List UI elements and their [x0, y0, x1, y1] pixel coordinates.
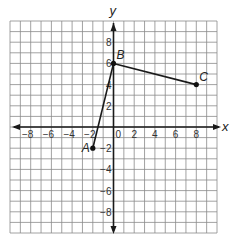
y-tick-label: −4	[100, 164, 112, 175]
x-tick-label: 6	[173, 129, 179, 140]
y-tick-label: 2	[106, 101, 112, 112]
point-b-label: B	[117, 48, 125, 62]
x-tick-label: 8	[194, 129, 200, 140]
x-tick-labels: −8−6−4−202468	[22, 129, 200, 140]
y-axis-up-arrow-icon	[111, 23, 117, 31]
x-tick-label: 0	[116, 129, 122, 140]
x-tick-label: −2	[84, 129, 96, 140]
point-b	[111, 61, 116, 66]
x-axis-label: x	[221, 119, 229, 134]
x-tick-label: 2	[131, 129, 137, 140]
point-c-label: C	[199, 70, 208, 84]
x-tick-label: 4	[152, 129, 158, 140]
y-tick-label: −8	[100, 207, 112, 218]
x-tick-label: −4	[63, 129, 75, 140]
coordinate-plane: x y −8−6−4−202468 8642−2−4−6−8 ABC	[0, 0, 235, 240]
x-tick-label: −6	[43, 129, 55, 140]
point-c	[194, 82, 199, 87]
point-a	[90, 146, 95, 151]
y-tick-label: −6	[100, 186, 112, 197]
y-axis-label: y	[109, 3, 118, 18]
y-tick-label: −2	[100, 143, 112, 154]
x-tick-label: −8	[22, 129, 34, 140]
x-axis-left-arrow-icon	[12, 124, 20, 130]
y-tick-label: 8	[106, 37, 112, 48]
point-a-label: A	[81, 141, 90, 155]
